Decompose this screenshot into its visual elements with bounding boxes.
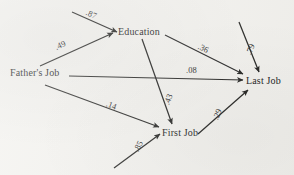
coefficient-value: .08 [186,65,197,75]
edge-education-last [165,35,243,74]
node-first-job-label: First Job [162,127,198,138]
node-fathers-job: Father's Job [10,68,59,78]
node-education-label: Education [118,26,160,37]
edge-father-first [45,85,159,127]
node-last-job: Last Job [246,76,281,86]
path-diagram-figure: Father's Job Education First Job Last Jo… [0,0,294,175]
edge-education-first [142,39,172,124]
edge-father-education [40,33,113,66]
node-fathers-job-label: Father's Job [10,67,59,78]
node-education: Education [118,27,160,37]
node-last-job-label: Last Job [246,75,281,86]
edge-label-father-last: .08 [186,66,197,75]
node-first-job: First Job [162,128,198,138]
